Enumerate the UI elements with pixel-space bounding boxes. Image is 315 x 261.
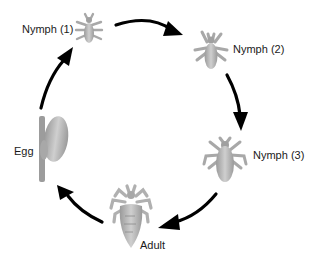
life-cycle-diagram: Nymph (1) Nymph (2) Nymph (3) Adult Egg [0, 0, 315, 261]
arrow-nymph3-to-adult [158, 194, 216, 230]
label-egg: Egg [14, 146, 34, 157]
arrow-egg-to-nymph1 [41, 47, 73, 108]
arrow-nymph2-to-nymph3 [227, 75, 248, 131]
label-adult: Adult [140, 240, 165, 251]
nymph3-illustration [204, 138, 246, 182]
label-nymph3: Nymph (3) [253, 150, 304, 161]
diagram-artwork [0, 0, 315, 261]
egg-illustration [39, 115, 71, 182]
nymph2-illustration [195, 32, 227, 69]
arrow-adult-to-egg [57, 185, 102, 222]
label-nymph1: Nymph (1) [22, 24, 73, 35]
arrow-nymph1-to-nymph2 [116, 21, 183, 36]
label-nymph2: Nymph (2) [233, 44, 284, 55]
nymph1-illustration [76, 14, 102, 43]
